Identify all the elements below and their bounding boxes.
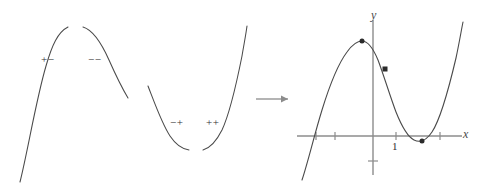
local-minimum-marker bbox=[420, 139, 425, 144]
right-panel-graph bbox=[0, 0, 482, 193]
cubic-curve bbox=[302, 22, 463, 180]
local-maximum-marker bbox=[360, 39, 365, 44]
x-axis-label: x bbox=[463, 127, 468, 142]
calculus-sign-chart-figure: +− −− −+ ++ y x 1 bbox=[0, 0, 482, 193]
inflection-point-marker bbox=[383, 67, 388, 72]
y-axis-label: y bbox=[371, 8, 376, 23]
x-tick-label-one: 1 bbox=[392, 140, 398, 152]
